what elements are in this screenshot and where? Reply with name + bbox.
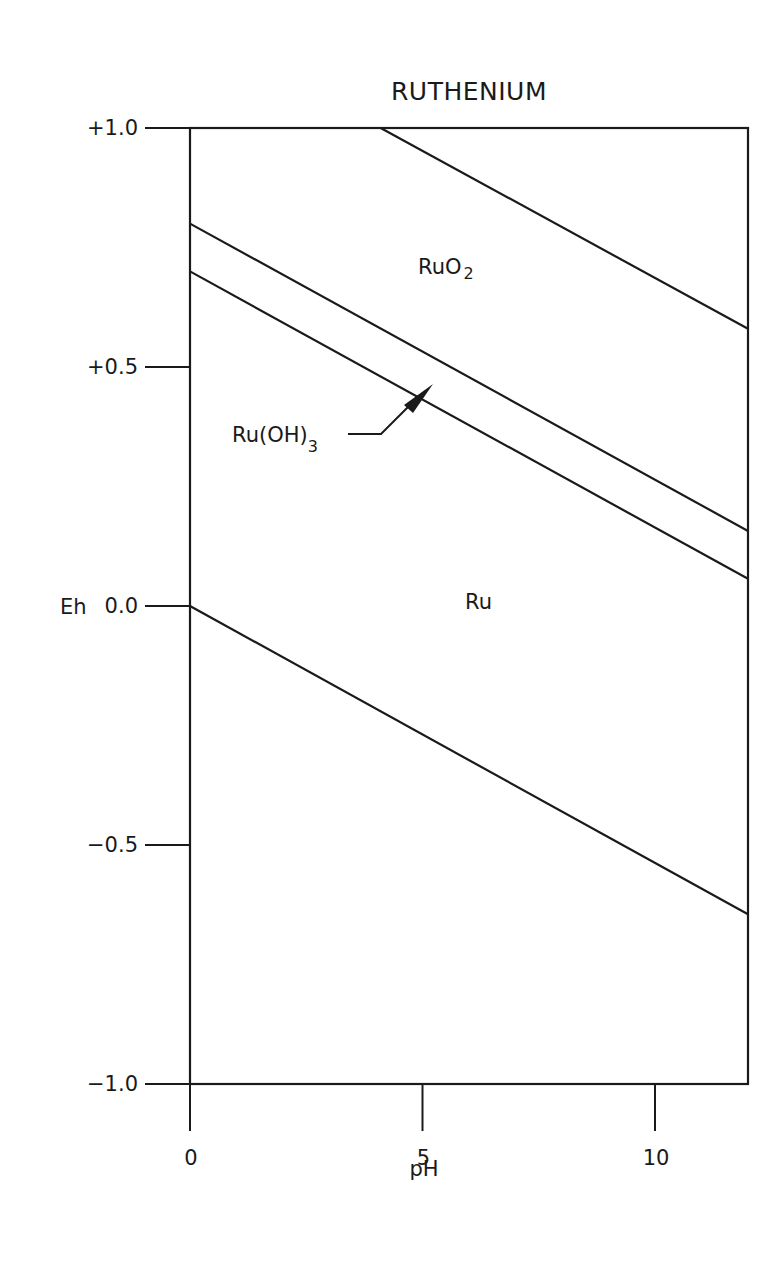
chart-title: RUTHENIUM bbox=[391, 77, 547, 106]
y-axis-label: Eh bbox=[60, 595, 87, 619]
y-tick-label: +0.5 bbox=[87, 355, 138, 379]
arrow-leader-line bbox=[348, 405, 410, 434]
boundary-line bbox=[381, 128, 748, 329]
boundary-line bbox=[190, 606, 748, 914]
x-tick-label: 0 bbox=[184, 1146, 197, 1170]
y-tick-label: 0.0 bbox=[105, 594, 138, 618]
boundary-lines bbox=[190, 128, 748, 914]
x-axis-label: pH bbox=[409, 1157, 438, 1181]
y-tick-label: +1.0 bbox=[87, 116, 138, 140]
y-axis: +1.0+0.50.0−0.5−1.0 bbox=[87, 116, 190, 1096]
y-tick-label: −0.5 bbox=[87, 833, 138, 857]
region-label-ru: Ru bbox=[465, 590, 492, 614]
eh-ph-diagram: RUTHENIUM +1.0+0.50.0−0.5−1.0 0510 Eh pH… bbox=[0, 0, 784, 1272]
x-tick-label: 10 bbox=[643, 1146, 670, 1170]
region-label-ruo2: RuO2 bbox=[418, 255, 474, 283]
region-label-ruoh3: Ru(OH)3 bbox=[232, 423, 318, 456]
y-tick-label: −1.0 bbox=[87, 1072, 138, 1096]
arrow-head-icon bbox=[404, 384, 433, 413]
